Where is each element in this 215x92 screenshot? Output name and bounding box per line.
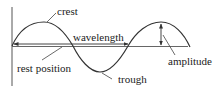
amplitude-leader bbox=[163, 35, 175, 55]
amplitude-label: amplitude bbox=[168, 55, 212, 67]
wavelength-label: wavelength bbox=[73, 31, 124, 43]
trough-label: trough bbox=[118, 73, 147, 85]
rest-position-label: rest position bbox=[17, 62, 72, 74]
rest-position-leader bbox=[42, 47, 62, 60]
crest-label: crest bbox=[57, 5, 78, 17]
crest-leader bbox=[47, 13, 56, 22]
wave-diagram: crest wavelength rest position trough am… bbox=[0, 0, 215, 92]
trough-leader bbox=[102, 73, 112, 79]
